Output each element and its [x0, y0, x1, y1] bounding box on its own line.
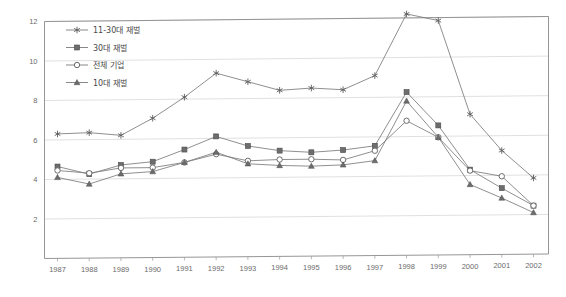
gridline — [45, 214, 549, 219]
legend-label: 11-30대 재벌 — [93, 25, 140, 35]
data-point — [404, 90, 409, 95]
chart-canvas: 2468101219871988198919901991199219931994… — [0, 0, 566, 297]
x-axis-tick-label: 2000 — [462, 262, 479, 271]
data-point — [531, 203, 536, 208]
legend-item[interactable]: 11-30대 재벌 — [66, 25, 140, 35]
data-point — [499, 186, 504, 191]
data-point — [55, 174, 61, 179]
data-point — [150, 115, 156, 122]
series-line — [58, 121, 534, 206]
data-point — [214, 134, 219, 139]
gridline — [45, 96, 549, 101]
series-line — [58, 92, 534, 206]
series-1 — [55, 11, 537, 182]
series-line — [58, 14, 534, 178]
x-axis-tick-label: 1990 — [144, 265, 161, 274]
y-axis-labels: 24681012 — [29, 17, 37, 224]
data-point — [372, 72, 378, 79]
x-axis-tick-label: 1989 — [113, 265, 130, 274]
data-point — [372, 158, 378, 163]
data-point — [372, 148, 377, 153]
x-axis-tick-label: 1995 — [303, 263, 320, 272]
data-point — [467, 181, 473, 186]
data-point — [531, 175, 537, 182]
data-point — [150, 159, 155, 164]
y-axis-tick-label: 10 — [29, 57, 37, 66]
x-axis-tick-label: 1998 — [398, 262, 415, 271]
data-point — [499, 195, 505, 200]
legend-item[interactable]: 10대 재벌 — [66, 78, 127, 88]
x-axis-tick-label: 1992 — [208, 264, 225, 273]
y-axis-tick-label: 8 — [33, 96, 37, 105]
y-axis-tick-label: 4 — [33, 175, 37, 184]
data-point — [118, 165, 123, 170]
data-point — [213, 70, 219, 77]
x-axis-tick-label: 1999 — [430, 262, 447, 271]
data-point — [309, 157, 314, 162]
series-2 — [55, 90, 536, 209]
data-point — [87, 170, 92, 175]
x-axis-labels: 1987198819891990199119921993199419951996… — [49, 261, 542, 274]
legend: 11-30대 재벌30대 재벌전체 기업10대 재벌 — [66, 25, 140, 88]
x-axis-tick-label: 1993 — [240, 264, 257, 273]
x-axis-tick-label: 1987 — [49, 265, 66, 274]
y-axis-tick-label: 6 — [33, 136, 37, 145]
legend-label: 전체 기업 — [93, 60, 124, 70]
data-point — [436, 123, 441, 128]
x-axis-tick-label: 1991 — [176, 264, 193, 273]
data-point — [309, 150, 314, 155]
data-point — [182, 147, 187, 152]
data-point — [499, 174, 504, 179]
data-point — [55, 168, 60, 173]
legend-item[interactable]: 전체 기업 — [66, 60, 124, 70]
series-line — [58, 101, 534, 213]
y-axis-tick-label: 12 — [29, 17, 37, 26]
data-point — [531, 210, 537, 215]
legend-label: 10대 재벌 — [93, 78, 127, 88]
legend-label: 30대 재벌 — [93, 43, 127, 53]
legend-marker-circle-icon — [74, 62, 79, 67]
y-axis-tick-label: 2 — [33, 215, 37, 224]
data-point — [245, 78, 251, 85]
legend-item[interactable]: 30대 재벌 — [66, 43, 127, 53]
x-axis-tick-label: 2001 — [493, 261, 510, 270]
series-4 — [55, 98, 537, 215]
data-point — [277, 157, 282, 162]
data-point — [341, 148, 346, 153]
x-axis-tick-label: 1996 — [335, 263, 352, 272]
x-axis-tick-label: 1988 — [81, 265, 98, 274]
line-chart: 2468101219871988198919901991199219931994… — [0, 0, 566, 297]
x-axis-tick-label: 2002 — [525, 261, 542, 270]
x-axis-tick-label: 1997 — [366, 263, 383, 272]
series-group — [55, 11, 537, 215]
data-point — [277, 148, 282, 153]
data-point — [404, 98, 410, 103]
data-point — [467, 168, 472, 173]
x-axis-tick-label: 1994 — [271, 263, 288, 272]
data-point — [245, 143, 250, 148]
data-point — [404, 118, 409, 123]
legend-marker-square-icon — [75, 45, 80, 50]
